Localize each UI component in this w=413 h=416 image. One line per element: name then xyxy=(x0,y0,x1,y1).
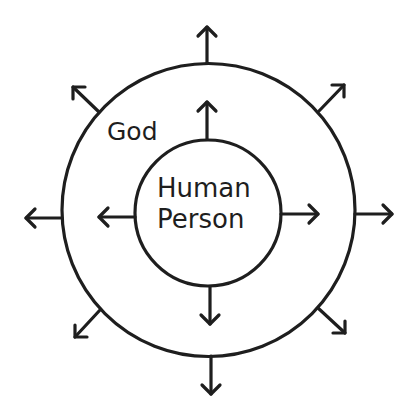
outer-arrow-down-left-icon xyxy=(75,310,100,337)
outer-arrow-down-icon xyxy=(202,356,220,394)
inner-arrow-down-icon xyxy=(201,287,219,324)
outer-arrow-up-right-icon xyxy=(319,85,344,111)
inner-arrow-right-icon xyxy=(281,205,318,223)
diagram-canvas: God Human Person xyxy=(0,0,413,416)
outer-arrow-right-icon xyxy=(355,205,392,223)
concentric-circles-diagram: God Human Person xyxy=(0,0,413,416)
outer-label-god: God xyxy=(107,117,158,146)
inner-arrow-left-icon xyxy=(99,208,135,226)
inner-label-human: Human xyxy=(157,173,251,203)
outer-arrow-up-icon xyxy=(198,27,216,63)
outer-arrow-left-icon xyxy=(26,209,62,227)
inner-label-person: Person xyxy=(157,204,244,234)
outer-arrow-up-left-icon xyxy=(73,87,99,112)
outer-arrow-down-right-icon xyxy=(318,308,345,333)
inner-arrow-up-icon xyxy=(198,102,216,139)
